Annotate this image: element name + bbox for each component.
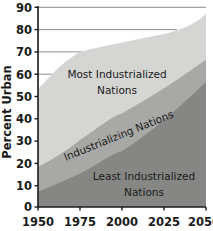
label-least-industrialized-line2: Nations	[124, 186, 164, 198]
y-tick-label-20: 20	[16, 157, 32, 171]
x-tick-label-2000: 2000	[106, 215, 138, 229]
label-most-industrialized-line2: Nations	[97, 84, 137, 96]
y-tick-label-70: 70	[16, 45, 32, 59]
y-tick-label-0: 0	[24, 200, 32, 214]
y-tick-label-50: 50	[16, 90, 32, 104]
y-axis-tick-labels: 90 80 70 60 50 40 30 20 10 0	[16, 1, 32, 215]
y-tick-label-60: 60	[16, 68, 32, 82]
y-tick-label-90: 90	[16, 1, 32, 15]
x-tick-label-2025: 2025	[148, 215, 180, 229]
label-least-industrialized-line1: Least Industrialized	[93, 170, 195, 182]
y-tick-label-10: 10	[16, 179, 32, 193]
y-tick-label-30: 30	[16, 134, 32, 148]
y-axis-title: Percent Urban	[0, 65, 14, 158]
x-tick-label-1975: 1975	[64, 215, 96, 229]
y-tick-label-80: 80	[16, 23, 32, 37]
x-tick-label-2050: 2050	[188, 215, 213, 229]
y-tick-label-40: 40	[16, 112, 32, 126]
urbanization-area-chart: 90 80 70 60 50 40 30 20 10 0 1950 1975 2…	[0, 0, 213, 231]
x-tick-label-1950: 1950	[22, 215, 54, 229]
chart-canvas: 90 80 70 60 50 40 30 20 10 0 1950 1975 2…	[0, 0, 213, 231]
label-most-industrialized-line1: Most Industrialized	[67, 68, 166, 80]
x-axis-tick-labels: 1950 1975 2000 2025 2050	[22, 215, 213, 229]
